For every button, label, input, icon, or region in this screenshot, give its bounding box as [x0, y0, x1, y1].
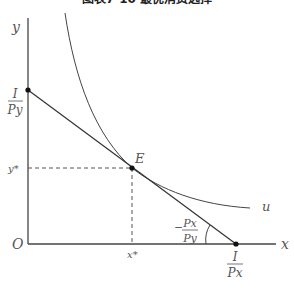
x-intercept-numerator: I	[232, 250, 238, 264]
x-star-label: x*	[127, 249, 138, 260]
equilibrium-label: E	[134, 151, 145, 166]
x-intercept-denominator: Px	[227, 266, 243, 280]
slope-numerator: Px	[182, 217, 197, 230]
x-intercept-point	[233, 241, 238, 246]
slope-denominator: Py	[182, 232, 197, 245]
curve-label: u	[262, 199, 270, 214]
y-intercept-denominator: Py	[7, 103, 23, 117]
equilibrium-point	[129, 165, 134, 170]
y-axis-label: y	[11, 19, 21, 35]
x-axis-label: x	[281, 236, 289, 252]
y-star-label: y*	[7, 163, 19, 174]
origin-label: O	[12, 236, 24, 252]
indifference-curve	[65, 13, 250, 208]
slope-minus-sign: −	[174, 221, 183, 234]
diagram-title: 图表7-10 最优消费选择	[82, 0, 213, 6]
slope-angle-arc	[206, 225, 210, 244]
y-intercept-point	[25, 87, 30, 92]
y-intercept-numerator: I	[12, 87, 18, 101]
optimal-consumption-diagram: 图表7-10 最优消费选择 y x O I Py y* E x* u − Px …	[0, 0, 294, 288]
